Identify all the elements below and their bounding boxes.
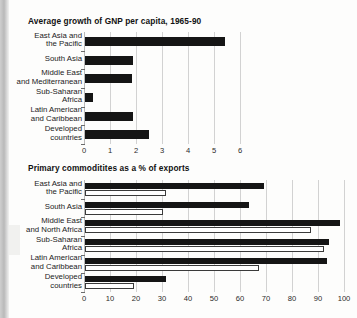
- category-label: East Asia andthe Pacific: [0, 180, 82, 197]
- x-tick-label: 70: [262, 294, 270, 303]
- bar-filled: [85, 37, 225, 46]
- category-label: South Asia: [0, 55, 82, 64]
- category-label-line: the Pacific: [0, 188, 82, 197]
- category-label-line: and North Africa: [0, 226, 82, 235]
- bar-filled: [85, 183, 264, 189]
- x-tick-label: 2: [134, 146, 138, 155]
- axis-row-tick: [81, 199, 85, 200]
- category-label-line: countries: [0, 134, 82, 143]
- category-label: Developedcountries: [0, 273, 82, 290]
- category-label-line: Africa: [0, 244, 82, 253]
- x-tick-label: 80: [288, 294, 296, 303]
- x-tick-label: 0: [82, 146, 86, 155]
- bar-outlined: [85, 209, 163, 215]
- x-tick-label: 4: [186, 146, 190, 155]
- x-tick-label: 1: [108, 146, 112, 155]
- category-label-line: the Pacific: [0, 40, 82, 49]
- gridline-2: [136, 32, 137, 144]
- category-label-line: South Asia: [0, 203, 82, 212]
- x-tick-label: 50: [210, 294, 218, 303]
- category-label: Middle Eastand North Africa: [0, 217, 82, 234]
- x-tick-label: 100: [338, 294, 351, 303]
- category-label: South Asia: [0, 203, 82, 212]
- plot-area-primary-commodities: 0102030405060708090100: [84, 180, 344, 292]
- bar-filled: [85, 258, 327, 264]
- bar-filled: [85, 74, 132, 83]
- bar-outlined: [85, 227, 311, 233]
- category-label-line: countries: [0, 282, 82, 291]
- chart-title-primary-commodities: Primary commoditites as a % of exports: [28, 163, 190, 173]
- chart-primary-commodities: Primary commoditites as a % of exports 0…: [0, 158, 357, 313]
- category-label: Developedcountries: [0, 125, 82, 142]
- bar-outlined: [85, 246, 324, 252]
- gridline-40: [188, 180, 189, 292]
- gridline-50: [214, 180, 215, 292]
- x-tick-label: 6: [238, 146, 242, 155]
- bar-filled: [85, 130, 149, 139]
- axis-row-tick: [81, 292, 85, 293]
- gridline-80: [292, 180, 293, 292]
- category-label-line: Africa: [0, 96, 82, 105]
- bar-outlined: [85, 283, 134, 289]
- bar-filled: [85, 220, 340, 226]
- bar-filled: [85, 56, 133, 65]
- category-label: Latin Americanand Caribbean: [0, 106, 82, 123]
- category-label: East Asia andthe Pacific: [0, 32, 82, 49]
- category-label-line: South Asia: [0, 55, 82, 64]
- gridline-90: [318, 180, 319, 292]
- bar-filled: [85, 202, 249, 208]
- gridline-1: [110, 32, 111, 144]
- x-tick-label: 30: [158, 294, 166, 303]
- category-label-line: and Caribbean: [0, 263, 82, 272]
- bar-filled: [85, 239, 329, 245]
- bar-outlined: [85, 190, 166, 196]
- gridline-6: [240, 32, 241, 144]
- bar-filled: [85, 112, 133, 121]
- category-label: Latin Americanand Caribbean: [0, 254, 82, 271]
- x-tick-label: 0: [82, 294, 86, 303]
- x-tick-label: 60: [236, 294, 244, 303]
- gridline-5: [214, 32, 215, 144]
- x-tick-label: 10: [106, 294, 114, 303]
- x-tick-label: 5: [212, 146, 216, 155]
- chart-title-gnp-growth: Average growth of GNP per capita, 1965-9…: [28, 16, 201, 26]
- gridline-100: [344, 180, 345, 292]
- gridline-3: [162, 32, 163, 144]
- bar-outlined: [85, 265, 259, 271]
- category-label: Sub-SaharanAfrica: [0, 88, 82, 105]
- plot-area-gnp-growth: 0123456: [84, 32, 240, 144]
- x-tick-label: 40: [184, 294, 192, 303]
- bar-filled: [85, 276, 166, 282]
- gridline-4: [188, 32, 189, 144]
- category-label-line: and Caribbean: [0, 115, 82, 124]
- gridline-60: [240, 180, 241, 292]
- chart-gnp-growth: Average growth of GNP per capita, 1965-9…: [0, 8, 357, 158]
- x-tick-label: 3: [160, 146, 164, 155]
- category-label: Middle Eastand Mediterranean: [0, 69, 82, 86]
- axis-row-tick: [81, 144, 85, 145]
- x-tick-label: 90: [314, 294, 322, 303]
- category-label-line: and Mediterranean: [0, 78, 82, 87]
- category-label: Sub-SaharanAfrica: [0, 236, 82, 253]
- x-tick-label: 20: [132, 294, 140, 303]
- gridline-70: [266, 180, 267, 292]
- axis-row-tick: [81, 51, 85, 52]
- bar-filled: [85, 93, 93, 102]
